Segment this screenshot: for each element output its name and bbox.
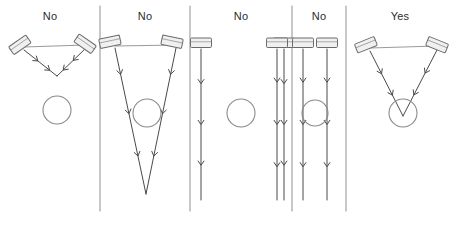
panel-2 <box>99 35 184 194</box>
beam-left <box>24 50 57 76</box>
panel-1-verdict-label: No <box>43 10 57 22</box>
panel-5 <box>354 36 448 127</box>
fixture-right-housing <box>267 38 288 48</box>
beam-right-line <box>57 49 85 76</box>
target-circle <box>227 99 255 127</box>
target-circle <box>133 99 161 127</box>
beam-outer <box>274 49 280 200</box>
fixture-center[interactable] <box>317 38 338 48</box>
fixture-left[interactable] <box>191 38 212 48</box>
panel-4-verdict-label: No <box>312 10 326 22</box>
panel-3-verdict-label: No <box>234 10 248 22</box>
panel-3 <box>191 38 295 200</box>
target-circle <box>43 96 71 124</box>
fixture-left-housing <box>354 36 377 53</box>
beam-right-line <box>146 48 176 194</box>
fixture-left[interactable] <box>99 35 122 49</box>
panel-2-verdict-label: No <box>138 10 152 22</box>
fixture-left[interactable] <box>293 38 314 48</box>
beam-left <box>300 49 306 200</box>
beam-right <box>403 50 437 116</box>
panel-5-verdict-label: Yes <box>391 10 410 22</box>
fixture-right[interactable] <box>74 34 97 54</box>
beam-right <box>281 49 287 200</box>
fixture-left[interactable] <box>354 36 377 53</box>
beam-center <box>324 49 330 200</box>
beam-left <box>198 49 204 200</box>
target-circle <box>302 100 328 126</box>
panel-1 <box>9 34 97 124</box>
target-circle <box>389 99 417 127</box>
beam-left-line <box>370 51 403 116</box>
fixture-left-housing <box>99 35 122 49</box>
panel-1-mounting-bar <box>24 45 85 47</box>
diagram-canvas: NoNoNoNoYes <box>0 0 454 226</box>
fixture-right-housing <box>161 35 184 49</box>
beam-left <box>370 51 403 116</box>
panel-4 <box>267 38 338 200</box>
fixture-right[interactable] <box>267 38 288 48</box>
beam-left-line <box>24 50 57 76</box>
beam-right <box>146 48 176 194</box>
beam-left <box>115 48 146 194</box>
beam-right <box>57 49 85 76</box>
fixture-right[interactable] <box>161 35 184 49</box>
lighting-aim-diagram <box>0 0 454 226</box>
fixture-left-housing <box>293 38 314 48</box>
beam-left-line <box>115 48 146 194</box>
beam-right-line <box>403 50 437 116</box>
fixture-left[interactable] <box>9 35 32 55</box>
fixture-center-housing <box>317 38 338 48</box>
fixture-left-housing <box>191 38 212 48</box>
